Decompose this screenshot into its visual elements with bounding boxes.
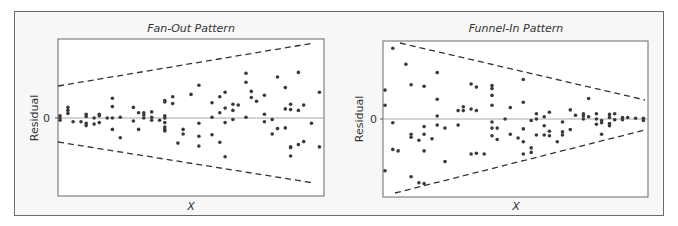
data-point <box>600 132 604 136</box>
data-point <box>66 106 70 110</box>
data-point <box>150 110 154 114</box>
data-point <box>529 151 533 155</box>
data-point <box>621 118 625 122</box>
data-point <box>391 47 395 51</box>
data-point <box>289 145 293 149</box>
data-point <box>132 119 136 123</box>
y-tick-label: 0 <box>43 112 50 125</box>
data-point <box>561 120 565 124</box>
data-point <box>642 119 646 123</box>
data-point <box>276 75 280 79</box>
data-point <box>250 96 254 100</box>
data-point <box>163 100 167 104</box>
data-point <box>289 108 293 112</box>
data-point <box>409 83 413 87</box>
data-point <box>548 134 552 138</box>
data-point <box>561 133 565 137</box>
data-point <box>634 116 638 120</box>
data-point <box>391 121 395 125</box>
data-point <box>608 116 612 120</box>
data-point <box>475 151 479 155</box>
y-tick-label: 0 <box>370 113 377 126</box>
data-point <box>255 100 259 104</box>
data-point <box>595 117 599 121</box>
data-point <box>92 122 96 126</box>
data-point <box>284 107 288 111</box>
data-point <box>223 90 227 94</box>
data-point <box>132 106 136 110</box>
data-point <box>98 114 102 118</box>
data-point <box>600 121 604 125</box>
data-point <box>469 107 473 111</box>
data-point <box>542 115 546 119</box>
data-point <box>92 116 96 120</box>
data-point <box>289 154 293 158</box>
data-point <box>270 132 274 136</box>
data-point <box>522 140 526 144</box>
data-point <box>409 175 413 179</box>
data-point <box>548 110 552 114</box>
data-point <box>443 160 447 164</box>
data-point <box>98 121 102 125</box>
data-point <box>111 96 115 100</box>
data-point <box>84 122 88 126</box>
data-point <box>516 136 520 140</box>
data-point <box>574 113 578 117</box>
data-point <box>318 90 322 94</box>
data-point <box>218 111 222 115</box>
data-point <box>318 145 322 149</box>
data-point <box>569 128 573 132</box>
data-point <box>435 71 439 75</box>
data-point <box>250 90 254 94</box>
data-point <box>197 84 201 88</box>
x-axis-label: X <box>186 200 195 213</box>
data-point <box>158 119 162 123</box>
data-point <box>310 122 314 126</box>
data-point <box>626 116 630 120</box>
data-point <box>111 116 115 120</box>
data-point <box>430 137 434 141</box>
data-point <box>522 101 526 105</box>
data-point <box>435 123 439 127</box>
data-point <box>163 129 167 133</box>
data-point <box>409 135 413 139</box>
y-axis-label: Residual <box>28 95 41 141</box>
data-point <box>236 103 240 107</box>
data-point <box>142 113 146 117</box>
data-point <box>163 121 167 125</box>
data-point <box>218 141 222 145</box>
data-point <box>613 112 617 116</box>
data-point <box>197 144 201 148</box>
data-point <box>422 132 426 136</box>
funnel-in-panel: Funnel-In Pattern 0 Residual X <box>353 22 648 213</box>
data-point <box>404 63 408 67</box>
data-point <box>171 102 175 106</box>
data-point <box>79 120 83 124</box>
data-point <box>383 104 387 108</box>
data-point <box>535 133 539 137</box>
data-point <box>422 85 426 89</box>
y-axis-label: Residual <box>353 96 366 142</box>
data-point <box>443 126 447 130</box>
data-point <box>150 115 154 119</box>
data-point <box>181 132 185 136</box>
data-point <box>456 123 460 127</box>
data-point <box>119 136 123 140</box>
data-point <box>613 118 617 122</box>
data-point <box>529 146 533 150</box>
data-point <box>176 141 180 145</box>
data-point <box>171 95 175 99</box>
data-point <box>462 109 466 113</box>
data-point <box>284 86 288 90</box>
data-point <box>197 134 201 138</box>
data-point <box>417 139 421 143</box>
fan-out-panel: Fan-Out Pattern 0 Residual X <box>28 22 324 213</box>
data-point <box>58 119 62 123</box>
data-point <box>422 182 426 186</box>
residual-plots: Fan-Out Pattern 0 Residual X Funnel-In P… <box>0 0 678 226</box>
data-point <box>71 120 75 124</box>
data-point <box>137 128 141 132</box>
data-point <box>231 103 235 107</box>
data-point <box>509 132 513 136</box>
data-point <box>302 103 306 107</box>
